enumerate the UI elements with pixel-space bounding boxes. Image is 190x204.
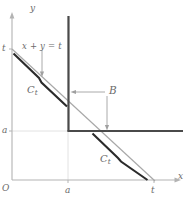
origin-label: O (2, 184, 9, 193)
curve-ct-upper (14, 54, 68, 107)
curve-label-upper: Ct (27, 85, 38, 96)
curve-label-lower-base: C (100, 153, 108, 164)
equation-label-text: x + y = t (22, 41, 62, 51)
curve-label-upper-subscript: t (35, 88, 38, 97)
axis-label-x: x (178, 172, 183, 181)
curve-label-lower-subscript: t (108, 157, 111, 166)
equation-label: x + y = t (22, 42, 62, 51)
tick-label-y-t: t (2, 44, 6, 53)
line-x-plus-y-equals-t (12, 49, 155, 181)
figure-graphic (0, 0, 190, 204)
curve-label-upper-base: C (27, 84, 35, 95)
curve-label-lower: Ct (100, 154, 111, 165)
tick-label-y-a: a (2, 126, 7, 135)
tick-label-x-a: a (65, 186, 70, 195)
y-axis-arrowhead (10, 12, 15, 19)
leader-b-horizontal-arrowhead (71, 90, 77, 94)
figure-canvas: y x O a t a t x + y = t Ct Ct B (0, 0, 190, 204)
tick-label-x-t: t (151, 186, 155, 195)
leader-b-vertical-arrowhead (105, 125, 109, 131)
axis-label-y: y (30, 4, 35, 13)
leader-equation-arrowhead (40, 72, 44, 78)
region-label-b: B (109, 85, 117, 96)
